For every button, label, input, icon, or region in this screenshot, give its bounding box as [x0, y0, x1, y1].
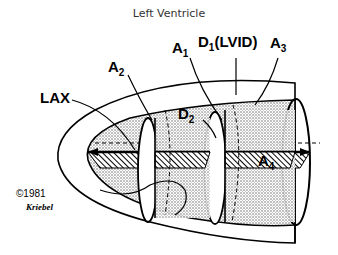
copyright-text: ©1981	[16, 188, 46, 199]
label-d1-lvid: D1(LVID)	[198, 33, 257, 53]
label-lax: LAX	[40, 89, 70, 106]
author-signature: Kriebel	[25, 202, 53, 212]
label-a2: A2	[108, 58, 125, 78]
label-a3: A3	[270, 34, 287, 54]
label-a1: A1	[172, 39, 189, 59]
left-ventricle-diagram: LAX A2 A1 D1(LVID) A3 D2 A4 ©1981 Kriebe…	[0, 0, 338, 255]
